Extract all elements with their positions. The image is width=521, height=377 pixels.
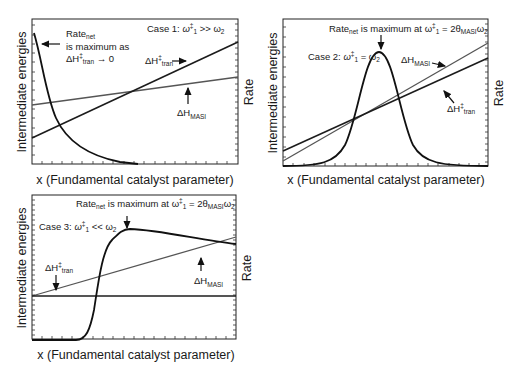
x-axis-label: x (Fundamental catalyst parameter)	[37, 348, 234, 362]
masi-label: ΔHMASI	[194, 275, 223, 288]
tran-label: ΔH‡tran	[145, 54, 173, 67]
y-axis-right-label: Rate	[240, 255, 254, 281]
rate-annotation: Ratenet is maximum at ω‡1 = 2θMASIω2	[329, 22, 488, 35]
arrow-masi	[432, 63, 445, 66]
x-axis-label: x (Fundamental catalyst parameter)	[36, 173, 233, 187]
panel-case1: Case 1: ω‡1 >> ω2 Ratenet is maximum as …	[15, 19, 256, 187]
case-label: Case 3: ω‡1 << ω2	[39, 220, 117, 233]
y-axis-left-label: Intermediate energies	[266, 33, 280, 154]
tran-line	[32, 42, 238, 138]
masi-label: ΔHMASI	[177, 107, 206, 120]
figure: Case 1: ω‡1 >> ω2 Ratenet is maximum as …	[0, 0, 521, 377]
y-axis-right-label: Rate	[492, 80, 506, 106]
tran-label: ΔH‡tran	[45, 261, 73, 274]
rate-annotation-line1: Ratenet	[66, 28, 95, 40]
panel-case2: Ratenet is maximum at ω‡1 = 2θMASIω2 Cas…	[266, 19, 506, 187]
case-label: Case 1: ω‡1 >> ω2	[147, 22, 225, 35]
rate-curve	[34, 33, 138, 164]
masi-label: ΔHMASI	[401, 54, 430, 67]
rate-annotation-line3: ΔH‡tran → 0	[66, 52, 114, 65]
y-axis-left-label: Intermediate energies	[15, 32, 29, 153]
y-axis-left-label: Intermediate energies	[15, 208, 29, 329]
case-label: Case 2: ω‡1 = ω2	[308, 50, 380, 63]
tran-label: ΔH‡tran	[447, 102, 475, 115]
rate-annotation-line2: is maximum as	[66, 41, 130, 52]
arrow-tran	[444, 91, 454, 103]
y-axis-right-label: Rate	[242, 79, 256, 105]
x-axis-label: x (Fundamental catalyst parameter)	[287, 173, 484, 187]
rate-annotation: Ratenet is maximum at ω‡1 = 2θMASIω2	[76, 197, 235, 210]
masi-line	[32, 77, 238, 105]
panel-case3: Ratenet is maximum at ω‡1 = 2θMASIω2 Cas…	[15, 195, 254, 362]
